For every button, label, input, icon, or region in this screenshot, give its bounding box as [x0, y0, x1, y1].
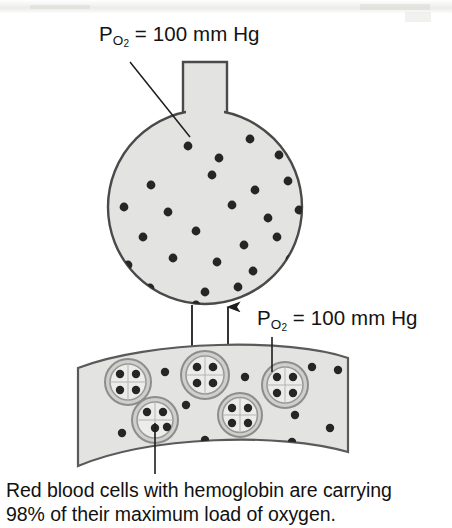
oxygen-molecule: [326, 424, 334, 432]
oxygen-molecule: [228, 419, 236, 427]
oxygen-molecule: [164, 208, 173, 217]
red-blood-cell: [218, 393, 262, 437]
oxygen-molecule: [159, 408, 167, 416]
oxygen-molecule: [273, 373, 281, 381]
oxygen-molecule: [273, 233, 282, 242]
oxygen-molecule: [182, 401, 190, 409]
po2-value: = 100 mm Hg: [293, 306, 418, 329]
oxygen-molecule: [184, 142, 193, 151]
oxygen-molecule: [147, 181, 156, 190]
alveolus-neck-seam: [186, 108, 224, 122]
oxygen-molecule: [241, 373, 249, 381]
oxygen-molecule: [244, 404, 252, 412]
po2-value: = 100 mm Hg: [135, 22, 260, 45]
oxygen-molecule: [116, 370, 124, 378]
red-blood-cell: [105, 359, 151, 405]
diagram-canvas: PO2 = 100 mm Hg PO2 = 100 mm Hg Red bloo…: [0, 0, 452, 528]
po2-subscript: O2: [271, 317, 287, 332]
oxygen-molecule: [209, 379, 218, 388]
oxygen-molecule: [208, 171, 217, 180]
oxygen-molecule: [244, 419, 252, 427]
oxygen-molecule: [234, 283, 243, 292]
oxygen-molecule: [143, 408, 151, 416]
oxygen-molecule: [246, 135, 255, 144]
oxygen-molecule: [118, 429, 126, 437]
oxygen-molecule: [215, 154, 224, 163]
oxygen-molecule: [284, 177, 293, 186]
oxygen-molecule: [169, 254, 178, 263]
oxygen-molecule: [139, 233, 148, 242]
oxygen-molecule: [132, 386, 140, 394]
oxygen-molecule: [116, 386, 124, 394]
oxygen-molecule: [275, 151, 284, 160]
oxygen-molecule: [209, 363, 218, 372]
oxygen-molecule: [240, 241, 249, 250]
alveolus-po2-label: PO2 = 100 mm Hg: [99, 22, 260, 46]
oxygen-molecule: [193, 379, 202, 388]
oxygen-molecule: [289, 389, 297, 397]
oxygen-molecule: [193, 363, 202, 372]
oxygen-molecule: [163, 423, 171, 431]
oxygen-molecule: [264, 214, 273, 223]
oxygen-molecule: [120, 203, 129, 212]
red-blood-cell: [181, 351, 229, 399]
oxygen-molecule: [213, 258, 222, 267]
oxygen-molecule: [334, 366, 342, 374]
po2-prefix: P: [257, 306, 271, 329]
caption-line-2: 98% of their maximum load of oxygen.: [6, 502, 452, 526]
caption-line-1: Red blood cells with hemoglobin are carr…: [6, 478, 452, 502]
oxygen-molecule: [201, 288, 210, 297]
alveolus-sphere: [108, 110, 302, 304]
oxygen-molecule: [201, 436, 209, 444]
oxygen-molecule: [251, 186, 260, 195]
red-blood-cell: [262, 362, 308, 408]
diagram-artwork: [0, 0, 452, 528]
oxygen-molecule: [161, 368, 169, 376]
oxygen-molecule: [228, 404, 236, 412]
po2-subscript: O2: [113, 33, 129, 48]
oxygen-molecule: [308, 363, 316, 371]
oxygen-molecule: [289, 373, 297, 381]
oxygen-molecule: [249, 267, 258, 276]
oxygen-molecule: [228, 201, 237, 210]
oxygen-molecule: [273, 389, 281, 397]
oxygen-molecule: [291, 411, 299, 419]
po2-prefix: P: [99, 22, 113, 45]
oxygen-molecule: [192, 227, 201, 236]
capillary-po2-label: PO2 = 100 mm Hg: [257, 306, 418, 330]
diagram-caption: Red blood cells with hemoglobin are carr…: [6, 478, 452, 526]
oxygen-molecule: [132, 370, 140, 378]
